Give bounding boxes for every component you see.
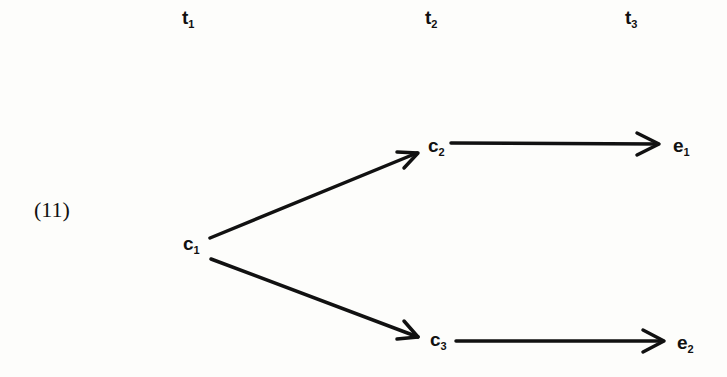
diagram-arrows <box>0 0 727 377</box>
arrow-c1-c2 <box>210 153 417 238</box>
arrow-c2-e1 <box>451 143 658 144</box>
arrow-c1-c3 <box>211 259 418 337</box>
